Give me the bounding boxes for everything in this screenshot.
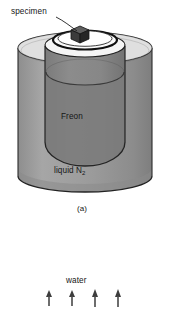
water-arrow — [115, 289, 121, 307]
label-specimen: specimen — [11, 8, 47, 16]
water-jet-arrows — [46, 289, 121, 307]
water-arrow — [92, 289, 98, 307]
specimen-leader-line — [56, 17, 77, 31]
label-liquid-nitrogen-text: liquid N — [54, 166, 82, 175]
label-liquid-nitrogen: liquid N2 — [54, 167, 86, 175]
label-water: water — [66, 277, 87, 285]
freon-beaker — [45, 31, 125, 167]
water-arrow — [69, 290, 75, 306]
water-arrow — [46, 290, 52, 306]
label-freon: Freon — [61, 113, 83, 121]
freon-liquid-fill — [46, 72, 124, 165]
label-liquid-nitrogen-subscript: 2 — [82, 170, 85, 176]
panel-caption-a: (a) — [77, 205, 87, 213]
cryo-quench-diagram — [0, 0, 173, 310]
figure-container: specimen Freon liquid N2 (a) water — [0, 0, 173, 310]
